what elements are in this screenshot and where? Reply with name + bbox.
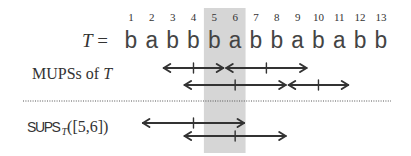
string-char: b xyxy=(162,31,183,54)
string-char: a xyxy=(141,31,162,54)
index-label: 4 xyxy=(183,12,204,23)
string-char: b xyxy=(371,31,392,54)
mupss-label: MUPSs of T xyxy=(32,66,112,82)
sups-function-name: SUPS xyxy=(27,119,60,135)
sups-label: SUPST([5,6]) xyxy=(27,118,108,136)
string-char: a xyxy=(287,31,308,54)
sups-argument: ([5,6]) xyxy=(67,118,108,136)
sups-interval-arrow xyxy=(185,131,286,141)
index-label: 10 xyxy=(308,12,329,23)
index-label: 7 xyxy=(246,12,267,23)
mups-arrows xyxy=(164,63,348,90)
index-label: 13 xyxy=(371,12,392,23)
mups-interval-arrow xyxy=(185,80,286,90)
index-label: 3 xyxy=(162,12,183,23)
mupss-label-variable: T xyxy=(103,65,112,82)
string-char: b xyxy=(183,31,204,54)
index-label: 2 xyxy=(141,12,162,23)
index-label: 11 xyxy=(329,12,350,23)
string-char: b xyxy=(308,31,329,54)
string-char: b xyxy=(350,31,371,54)
string-char: b xyxy=(246,31,267,54)
index-label: 12 xyxy=(350,12,371,23)
index-label: 5 xyxy=(204,12,225,23)
string-char: a xyxy=(329,31,350,54)
sups-subscript: T xyxy=(62,126,68,137)
index-label: 8 xyxy=(266,12,287,23)
string-char: b xyxy=(266,31,287,54)
mups-interval-arrow xyxy=(289,80,348,90)
index-label: 6 xyxy=(225,12,246,23)
string-char: a xyxy=(225,31,246,54)
equals-sign: = xyxy=(93,30,108,51)
index-label: 9 xyxy=(287,12,308,23)
position-indices: 1 2 3 4 5 6 7 8 9 10 11 12 13 xyxy=(121,12,392,23)
mupss-label-prefix: MUPSs of xyxy=(32,65,103,82)
string-variable: T xyxy=(82,30,93,51)
string-char: b xyxy=(204,31,225,54)
string-label: T = xyxy=(82,31,108,50)
index-label: 1 xyxy=(121,12,142,23)
string-char: b xyxy=(121,31,142,54)
string-characters: b a b b b a b b a b a b b xyxy=(121,31,392,54)
